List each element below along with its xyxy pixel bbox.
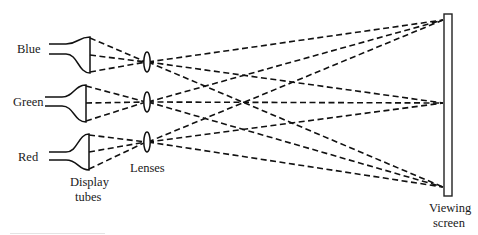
viewing-screen [444,14,452,196]
label-display-tubes-1: Display [70,175,110,189]
label-viewing-screen-2: screen [433,216,466,230]
lens-blue [144,52,150,72]
display-tube-green [45,85,146,122]
lens-red [144,132,150,152]
label-green: Green [13,95,44,109]
display-tube-blue [49,37,146,73]
lenses [144,52,150,152]
label-lenses: Lenses [130,161,165,175]
label-display-tubes-2: tubes [75,190,102,204]
label-viewing-screen-1: Viewing [429,201,472,215]
label-red: Red [18,150,39,164]
projection-rays [148,20,443,187]
lens-green [144,92,150,112]
divider-line [10,233,105,234]
projection-diagram: Blue Green Red Display tubes Lenses View… [0,0,478,235]
label-blue: Blue [17,42,41,56]
